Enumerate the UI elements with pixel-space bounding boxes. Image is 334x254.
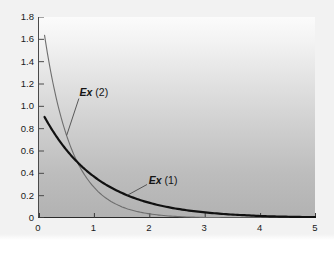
series-line-2 — [45, 117, 316, 217]
leader-line-ex1 — [128, 185, 147, 196]
y-tick-label-5: 1.0 — [4, 101, 34, 111]
x-tick-label-3: 3 — [194, 223, 214, 233]
y-axis-ticks — [39, 17, 44, 218]
curve-annotation-2: Ex (1) — [149, 175, 178, 186]
y-tick-label-8: 1.6 — [4, 34, 34, 44]
annotation-param-1: (2) — [92, 86, 108, 98]
curve-annotation-1: Ex (2) — [80, 87, 109, 98]
annotation-leader-lines — [67, 99, 147, 196]
plot-area — [38, 17, 315, 218]
y-tick-label-4: 0.8 — [4, 124, 34, 134]
x-tick-label-1: 1 — [83, 223, 103, 233]
x-tick-label-4: 4 — [250, 223, 270, 233]
annotation-symbol-1: Ex — [80, 86, 93, 98]
annotation-param-2: (1) — [162, 174, 178, 186]
leader-line-ex2 — [67, 99, 79, 136]
y-tick-label-6: 1.2 — [4, 79, 34, 89]
x-tick-label-0: 0 — [28, 223, 48, 233]
series-line-1 — [45, 35, 316, 218]
x-tick-label-5: 5 — [305, 223, 325, 233]
x-tick-label-2: 2 — [139, 223, 159, 233]
y-tick-label-1: 0.2 — [4, 191, 34, 201]
y-tick-label-3: 0.6 — [4, 146, 34, 156]
y-tick-label-9: 1.8 — [4, 12, 34, 22]
data-series-group — [45, 35, 316, 218]
y-tick-label-7: 1.4 — [4, 57, 34, 67]
annotation-symbol-2: Ex — [149, 174, 162, 186]
chart-screenshot: 00.20.40.60.81.01.21.41.61.8 012345 Ex (… — [0, 0, 334, 254]
plot-canvas — [39, 17, 316, 218]
y-tick-label-2: 0.4 — [4, 168, 34, 178]
y-tick-label-0: 0 — [4, 213, 34, 223]
